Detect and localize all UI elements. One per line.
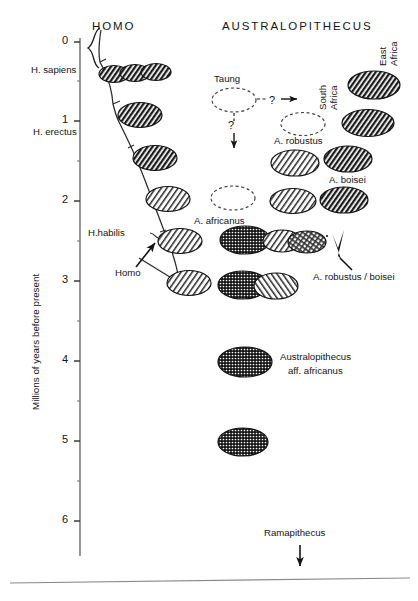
hominid-phylogeny-figure: HOMO AUSTRALOPITHECUS 0 1 2 3 4 5 6 Mill…: [0, 0, 418, 601]
label-south-africa-text: South Africa: [318, 85, 339, 110]
h-habilis-connector: [150, 233, 158, 238]
specimen-homo-155: [133, 146, 177, 171]
label-a-robustus: A. robustus: [274, 136, 323, 147]
label-a-africanus: A. africanus: [194, 216, 245, 227]
specimen-a-africanus-295-pair: [218, 271, 298, 299]
label-aff-africanus-line2: aff. africanus: [288, 366, 343, 377]
label-east-africa: East Africa: [356, 41, 418, 66]
label-h-habilis: H.habilis: [88, 228, 125, 239]
specimen-homo-295: [167, 271, 211, 296]
label-a-boisei: A. boisei: [329, 175, 366, 186]
y-axis: [74, 38, 80, 556]
specimen-a-boisei-250: [288, 231, 326, 253]
specimen-homo-200: [146, 187, 190, 212]
homo-arrow: [136, 243, 155, 267]
label-h-erectus: H. erectus: [33, 127, 77, 138]
label-homo-arrow: Homo: [115, 268, 141, 279]
label-aff-africanus-line1: Australopithecus: [280, 352, 351, 363]
specimen-east-africa-125: [342, 110, 394, 137]
a-robustus-boisei-pointer: [326, 230, 352, 270]
question-mark-1: ?: [269, 94, 275, 106]
specimen-taung-descendant: [211, 186, 255, 210]
label-taung: Taung: [214, 74, 240, 85]
y-tick-5: 5: [62, 433, 68, 445]
y-tick-2: 2: [62, 193, 68, 205]
header-australopithecus: AUSTRALOPITHECUS: [222, 20, 373, 33]
label-east-africa-text: East Africa: [378, 41, 399, 66]
specimen-south-africa-open: [281, 113, 325, 136]
label-south-africa: South Africa: [296, 85, 361, 110]
label-a-robustus-boisei: A. robustus / boisei: [313, 272, 395, 283]
y-tick-1: 1: [62, 113, 68, 125]
specimen-a-boisei-205: [320, 187, 368, 213]
y-tick-4: 4: [62, 353, 68, 365]
specimen-a-robustus-220: [270, 189, 316, 214]
specimen-taung: [212, 88, 256, 112]
label-ramapithecus: Ramapithecus: [264, 528, 325, 539]
specimen-a-boisei-180: [324, 146, 372, 172]
specimen-a-robustus-180: [271, 150, 319, 176]
y-tick-0: 0: [62, 34, 68, 46]
header-homo: HOMO: [92, 20, 135, 33]
y-axis-title: Millions of years before present: [30, 274, 41, 410]
specimen-aff-africanus-400: [218, 347, 272, 377]
specimen-aff-africanus-500: [218, 428, 268, 456]
specimen-h-erectus: [118, 103, 162, 128]
y-tick-6: 6: [62, 513, 68, 525]
bottom-rule: [10, 578, 410, 583]
specimen-h-sapiens-group: [99, 64, 171, 83]
question-mark-2: ?: [228, 119, 234, 131]
specimen-homo-245: [158, 229, 202, 254]
homo-brace: [88, 28, 100, 68]
label-h-sapiens: H. sapiens: [31, 65, 76, 76]
y-tick-3: 3: [62, 273, 68, 285]
